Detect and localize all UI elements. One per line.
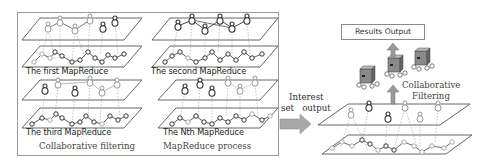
round-label-1: The first MapReduce (26, 66, 108, 76)
server-icon (412, 48, 434, 71)
round-label-3: The third MapReduce (26, 127, 111, 137)
cf-label-line1: Collaborative (402, 80, 460, 90)
round-label-n: The Nth MapReduce (163, 127, 244, 137)
caption-mapreduce-process: MapReduce process (163, 141, 251, 151)
round-label-2: The second MapReduce (151, 66, 246, 76)
caption-collaborative-filtering: Collaborative filtering (39, 141, 135, 151)
round-1-graph (22, 14, 142, 67)
server-icon (357, 66, 379, 89)
server-icon (385, 55, 407, 78)
interest-set-arrow (280, 114, 311, 134)
round-3-graph (22, 76, 142, 128)
round-2-graph (152, 14, 278, 67)
arrow-label-set-output: set output (281, 103, 331, 113)
cf-label-line2: Filtering (412, 91, 450, 101)
arrow-label-interest: Interest (289, 92, 324, 102)
round-n-graph (158, 76, 278, 128)
final-graph (318, 101, 472, 154)
results-output-box: Results Output (341, 24, 425, 40)
